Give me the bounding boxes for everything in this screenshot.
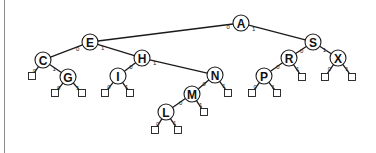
node-label: H [138, 52, 147, 66]
leaf-square-N1 [225, 90, 232, 97]
tree-node-G: G [60, 69, 76, 85]
tree-node-H: H [134, 50, 150, 66]
edge-A-S [249, 25, 306, 40]
node-label: X [334, 52, 342, 66]
leaf-square-L0 [152, 127, 159, 134]
leaf-square-G1 [79, 90, 86, 97]
tree-node-L: L [158, 104, 174, 120]
node-label: M [187, 88, 197, 102]
leaf-square-R1 [299, 74, 306, 81]
tree-node-S: S [305, 34, 321, 50]
node-label: G [63, 71, 72, 85]
leaf-square-X0 [322, 74, 329, 81]
leaf-square-L1 [175, 127, 182, 134]
node-label: S [309, 36, 317, 50]
leaf-square-P0 [249, 90, 256, 97]
leaf-square-I0 [102, 90, 109, 97]
node-label: N [211, 69, 220, 83]
bit-label: 1 [173, 120, 177, 126]
tree-node-P: P [256, 68, 272, 84]
bit-label: 1 [222, 83, 226, 89]
leaf-square-X1 [349, 74, 356, 81]
leaf-square-M1 [201, 109, 208, 116]
tree-node-I: I [110, 68, 126, 84]
bit-label: 1 [199, 102, 203, 108]
leaf-square-G0 [52, 90, 59, 97]
node-label: C [39, 54, 48, 68]
node-label: R [285, 52, 294, 66]
node-label: P [260, 70, 268, 84]
leaf-square-C0 [29, 73, 36, 80]
tree-node-C: C [35, 52, 51, 68]
tree-node-N: N [207, 67, 223, 83]
bit-label: 1 [271, 84, 275, 90]
tree-node-E: E [82, 34, 98, 50]
leaf-square-I1 [127, 90, 134, 97]
tree-node-A: A [233, 15, 249, 31]
tree-node-R: R [281, 50, 297, 66]
bit-label: 1 [296, 66, 300, 72]
bit-label: 1 [345, 66, 349, 72]
trie-diagram: 01010101010101010101010101 AESCHGINMLRPX [0, 0, 376, 153]
tree-node-M: M [184, 86, 200, 102]
leaves-layer [29, 73, 356, 134]
edge-A-E [98, 24, 233, 41]
node-label: L [162, 106, 169, 120]
leaf-square-P1 [274, 90, 281, 97]
nodes-layer: AESCHGINMLRPX [35, 15, 346, 120]
tree-node-X: X [330, 50, 346, 66]
edge-H-N [150, 60, 207, 73]
node-label: A [237, 17, 246, 31]
node-label: I [116, 70, 119, 84]
node-label: E [86, 36, 94, 50]
bit-label: 0 [226, 24, 230, 30]
